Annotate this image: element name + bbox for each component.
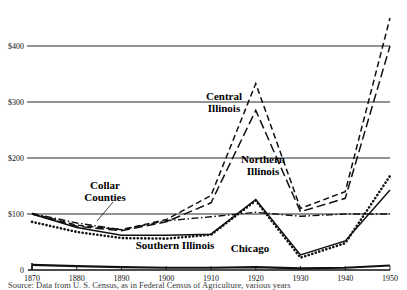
gridlines-group — [32, 46, 390, 214]
line-chart-plot: 0$100$200$300$400 1870188018901900191019… — [0, 0, 407, 290]
annotation-central-illinois: CentralIllinois — [206, 90, 242, 114]
series-line-northern-illinois — [32, 46, 390, 231]
y-axis-label-300: $300 — [8, 98, 24, 107]
y-axis-labels-group: 0$100$200$300$400 — [8, 42, 24, 275]
data-series-group — [32, 18, 390, 268]
annotation-northern-illinois: NorthernIllinois — [241, 153, 285, 177]
y-tick-marks-group — [27, 46, 32, 214]
y-axis-label-200: $200 — [8, 154, 24, 163]
figure-caption: Source: Data from U. S. Census, as in Fe… — [8, 281, 407, 290]
chart-container: 0$100$200$300$400 1870188018901900191019… — [0, 0, 407, 290]
collar-counties-leader-line — [97, 202, 113, 221]
annotation-southern-illinois: Southern Illinois — [136, 239, 215, 251]
y-axis-label-100: $100 — [8, 210, 24, 219]
annotation-collar-counties: CollarCounties — [84, 179, 126, 203]
annotation-chicago: Chicago — [231, 242, 270, 254]
y-axis-label-400: $400 — [8, 42, 24, 51]
